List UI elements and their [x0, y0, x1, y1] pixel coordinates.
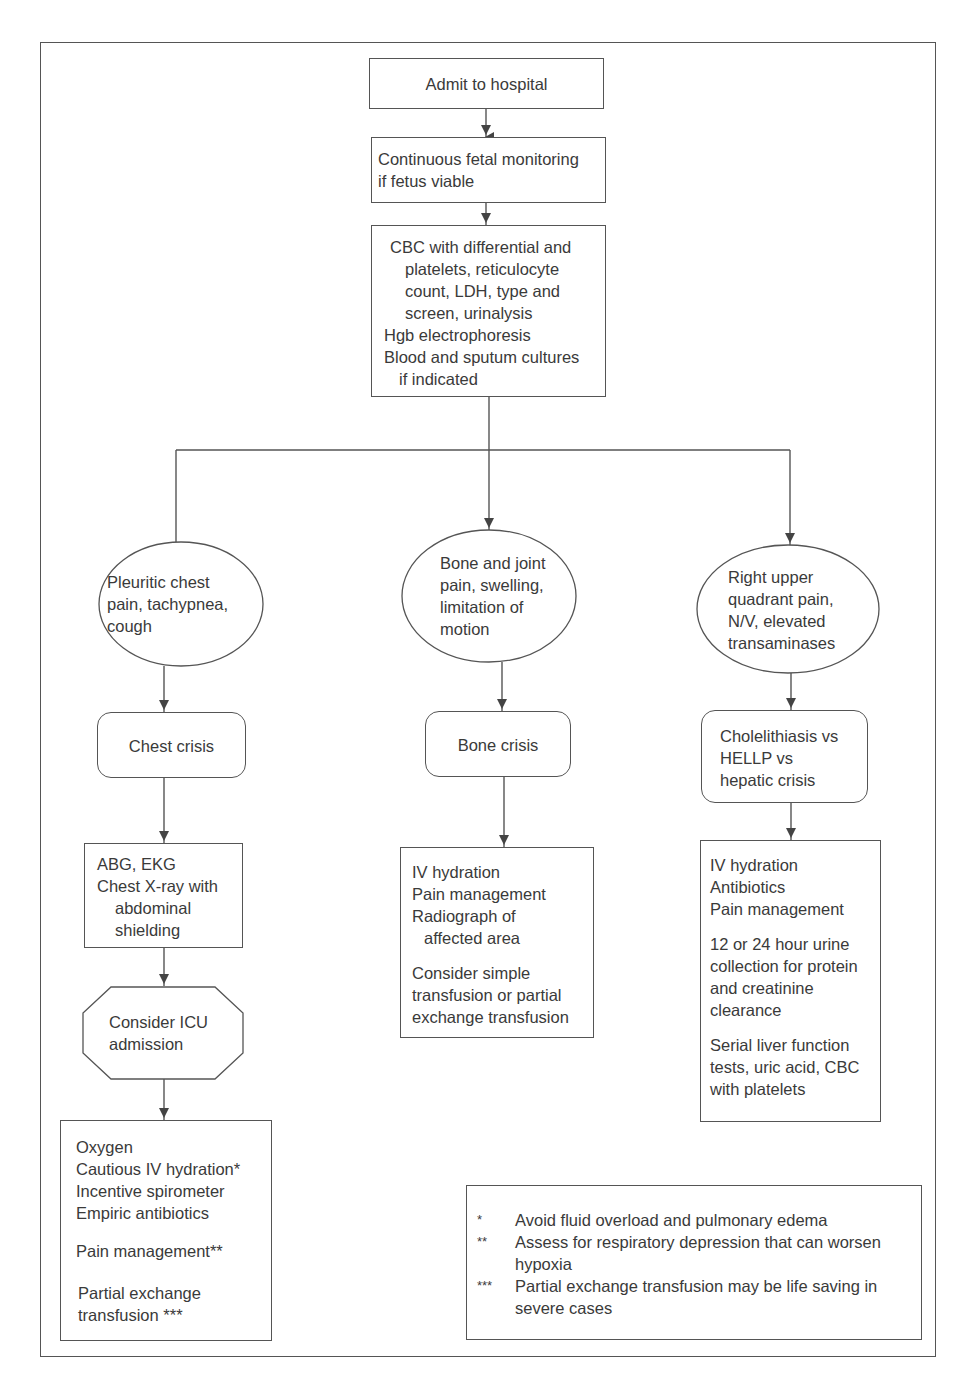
- footnote-line: Avoid fluid overload and pulmonary edema: [515, 1209, 827, 1231]
- node-lab-workup: CBC with differential and platelets, ret…: [371, 225, 606, 397]
- node-text: Cholelithiasis vs: [720, 725, 867, 747]
- node-chest-crisis: Chest crisis: [97, 712, 246, 778]
- node-text: shielding: [97, 919, 242, 941]
- node-text: if fetus viable: [378, 170, 605, 192]
- node-text: IV hydration: [412, 861, 593, 883]
- node-hepatic-differential: Cholelithiasis vs HELLP vs hepatic crisi…: [701, 710, 868, 803]
- footnote-1: * Avoid fluid overload and pulmonary ede…: [477, 1209, 921, 1231]
- node-text: affected area: [412, 927, 593, 949]
- node-bone-symptoms: Bone and joint pain, swelling, limitatio…: [440, 552, 546, 640]
- node-text: transfusion or partial: [412, 984, 593, 1006]
- node-text: CBC with differential and: [384, 236, 605, 258]
- footnote-mark: ***: [477, 1275, 515, 1319]
- node-chest-workup: ABG, EKG Chest X-ray with abdominal shie…: [84, 843, 243, 948]
- footnote-3: *** Partial exchange transfusion may be …: [477, 1275, 921, 1319]
- node-admit-to-hospital: Admit to hospital: [369, 58, 604, 109]
- node-text: Empiric antibiotics: [76, 1202, 271, 1224]
- node-bone-crisis: Bone crisis: [425, 711, 571, 777]
- node-text: Blood and sputum cultures: [384, 346, 605, 368]
- node-text: HELLP vs: [720, 747, 867, 769]
- node-text: Partial exchange: [76, 1282, 271, 1304]
- footnote-text: Avoid fluid overload and pulmonary edema: [515, 1209, 827, 1231]
- footnote-line: severe cases: [515, 1297, 877, 1319]
- node-text: 12 or 24 hour urine: [710, 933, 880, 955]
- node-text: transfusion ***: [76, 1304, 271, 1326]
- node-text: Radiograph of: [412, 905, 593, 927]
- node-text: clearance: [710, 999, 880, 1021]
- node-text: IV hydration: [710, 854, 880, 876]
- node-text: Hgb electrophoresis: [384, 324, 605, 346]
- node-hepatic-treatment: IV hydration Antibiotics Pain management…: [700, 840, 881, 1122]
- node-text: collection for protein: [710, 955, 880, 977]
- footnote-mark: **: [477, 1231, 515, 1275]
- node-text: if indicated: [384, 368, 605, 390]
- node-text: pain, swelling,: [440, 574, 546, 596]
- footnote-text: Assess for respiratory depression that c…: [515, 1231, 881, 1275]
- node-text: Cautious IV hydration*: [76, 1158, 271, 1180]
- footnote-mark: *: [477, 1209, 515, 1231]
- node-text: Incentive spirometer: [76, 1180, 271, 1202]
- footnote-line: hypoxia: [515, 1253, 881, 1275]
- node-text: Chest crisis: [98, 735, 245, 757]
- footnote-line: Partial exchange transfusion may be life…: [515, 1275, 877, 1297]
- node-text: platelets, reticulocyte: [384, 258, 605, 280]
- node-text: Bone crisis: [426, 734, 570, 756]
- node-text: Admit to hospital: [370, 73, 603, 95]
- node-text: pain, tachypnea,: [107, 593, 228, 615]
- node-text: admission: [109, 1033, 208, 1055]
- node-text: N/V, elevated: [728, 610, 835, 632]
- node-bone-treatment: IV hydration Pain management Radiograph …: [400, 847, 594, 1038]
- node-text: transaminases: [728, 632, 835, 654]
- node-text: Chest X-ray with: [97, 875, 242, 897]
- node-text: cough: [107, 615, 228, 637]
- node-text: Continuous fetal monitoring: [378, 148, 605, 170]
- node-chest-treatment: Oxygen Cautious IV hydration* Incentive …: [60, 1120, 272, 1341]
- node-fetal-monitoring: Continuous fetal monitoring if fetus via…: [371, 137, 606, 203]
- footnote-text: Partial exchange transfusion may be life…: [515, 1275, 877, 1319]
- node-text: Antibiotics: [710, 876, 880, 898]
- node-ruq-symptoms: Right upper quadrant pain, N/V, elevated…: [728, 566, 835, 654]
- node-text: Pain management: [412, 883, 593, 905]
- node-text: Consider ICU: [109, 1011, 208, 1033]
- node-text: Pain management**: [76, 1240, 271, 1262]
- node-text: hepatic crisis: [720, 769, 867, 791]
- node-text: Serial liver function: [710, 1034, 880, 1056]
- node-text: Pleuritic chest: [107, 571, 228, 593]
- node-text: with platelets: [710, 1078, 880, 1100]
- node-text: ABG, EKG: [97, 853, 242, 875]
- node-text: limitation of: [440, 596, 546, 618]
- node-text: count, LDH, type and: [384, 280, 605, 302]
- footnote-2: ** Assess for respiratory depression tha…: [477, 1231, 921, 1275]
- node-text: Right upper: [728, 566, 835, 588]
- node-text: Oxygen: [76, 1136, 271, 1158]
- node-text: Pain management: [710, 898, 880, 920]
- node-text: motion: [440, 618, 546, 640]
- footnote-line: Assess for respiratory depression that c…: [515, 1231, 881, 1253]
- node-text: and creatinine: [710, 977, 880, 999]
- node-text: tests, uric acid, CBC: [710, 1056, 880, 1078]
- node-text: abdominal: [97, 897, 242, 919]
- node-text: Bone and joint: [440, 552, 546, 574]
- node-text: exchange transfusion: [412, 1006, 593, 1028]
- footnotes-legend: * Avoid fluid overload and pulmonary ede…: [466, 1185, 922, 1340]
- node-chest-symptoms: Pleuritic chest pain, tachypnea, cough: [107, 571, 228, 637]
- node-text: quadrant pain,: [728, 588, 835, 610]
- node-text: Consider simple: [412, 962, 593, 984]
- node-text: screen, urinalysis: [384, 302, 605, 324]
- node-consider-icu: Consider ICU admission: [109, 1011, 208, 1055]
